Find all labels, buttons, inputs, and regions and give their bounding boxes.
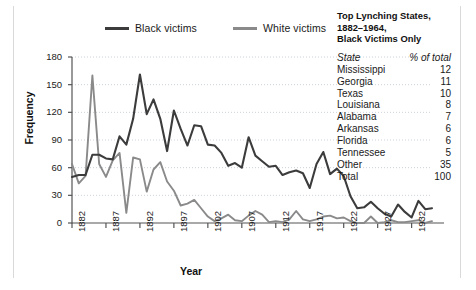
side-table-title: Top Lynching States, 1882–1964, Black Vi… [337,10,455,45]
x-tick-label: 1887 [110,211,121,232]
side-table-title-line1: Top Lynching States, [337,10,455,22]
side-table-row: Louisiana8 [337,99,455,111]
side-table-pct: 12 [417,64,455,76]
side-table-state: Tennessee [337,147,385,159]
x-tick-label: 1907 [246,211,257,232]
side-table-header-row: State % of total [337,52,455,64]
side-table-state: Georgia [337,76,373,88]
y-tick-label: 30 [36,189,62,200]
column-header-pct: % of total [409,52,455,64]
column-header-state: State [337,52,360,64]
y-tick-label: 120 [36,106,62,117]
y-tick-label: 0 [36,217,62,228]
side-table-row: Florida6 [337,135,455,147]
side-table-state: Other [337,159,362,171]
side-table-row: Other35 [337,159,455,171]
side-table-state: Total [337,171,358,183]
side-table-pct: 35 [417,159,455,171]
x-tick-label: 1922 [348,211,359,232]
y-tick-label: 150 [36,79,62,90]
side-table-pct: 7 [417,111,455,123]
x-tick-label: 1892 [144,211,155,232]
x-tick-label: 1932 [416,211,427,232]
side-table-pct: 6 [417,135,455,147]
side-table-state: Texas [337,88,363,100]
side-table-title-line3: Black Victims Only [337,33,455,45]
side-table-row: Georgia11 [337,76,455,88]
side-table-state: Arkansas [337,123,379,135]
side-table-row: Total100 [337,171,455,183]
x-tick-label: 1882 [76,211,87,232]
top-lynching-states-table: Top Lynching States, 1882–1964, Black Vi… [337,10,455,183]
side-table-pct: 8 [417,99,455,111]
x-tick-label: 1917 [314,211,325,232]
x-tick-label: 1902 [212,211,223,232]
side-table-pct: 11 [417,76,455,88]
side-table-row: Arkansas6 [337,123,455,135]
x-tick-label: 1897 [178,211,189,232]
side-table-rows: State % of total Mississippi12Georgia11T… [337,52,455,183]
side-table-state: Florida [337,135,368,147]
side-table-state: Mississippi [337,64,385,76]
side-table-pct: 5 [417,147,455,159]
y-tick-label: 180 [36,51,62,62]
y-tick-label: 90 [36,134,62,145]
side-table-pct: 6 [417,123,455,135]
side-table-state: Louisiana [337,99,380,111]
side-table-state: Alabama [337,111,376,123]
side-table-row: Texas10 [337,88,455,100]
side-table-pct: 100 [417,171,455,183]
side-table-title-line2: 1882–1964, [337,22,455,34]
side-table-row: Alabama7 [337,111,455,123]
x-tick-label: 1912 [280,211,291,232]
x-tick-label: 1927 [382,211,393,232]
x-axis-title: Year [180,265,202,277]
chart-page: Black victims White victims 030609012015… [0,0,476,290]
y-tick-label: 60 [36,162,62,173]
side-table-row: Mississippi12 [337,64,455,76]
side-table-row: Tennessee5 [337,147,455,159]
side-table-pct: 10 [417,88,455,100]
y-axis-title: Frequency [23,73,35,163]
